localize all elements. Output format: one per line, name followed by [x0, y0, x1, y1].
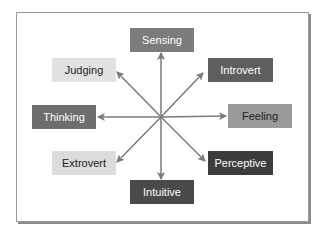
- arrow-to-introvert: [161, 73, 203, 117]
- arrow-to-judging: [117, 72, 161, 117]
- node-sensing: Sensing: [130, 28, 194, 52]
- arrow-to-extrovert: [117, 117, 161, 162]
- node-thinking: Thinking: [32, 105, 96, 129]
- arrow-to-perceptive: [161, 117, 205, 161]
- node-introvert: Introvert: [208, 58, 273, 82]
- node-perceptive: Perceptive: [208, 151, 273, 175]
- node-extrovert: Extrovert: [52, 151, 116, 175]
- node-intuitive: Intuitive: [130, 180, 194, 204]
- node-judging: Judging: [52, 58, 116, 82]
- arrow-to-feeling: [161, 116, 226, 117]
- node-feeling: Feeling: [228, 104, 292, 128]
